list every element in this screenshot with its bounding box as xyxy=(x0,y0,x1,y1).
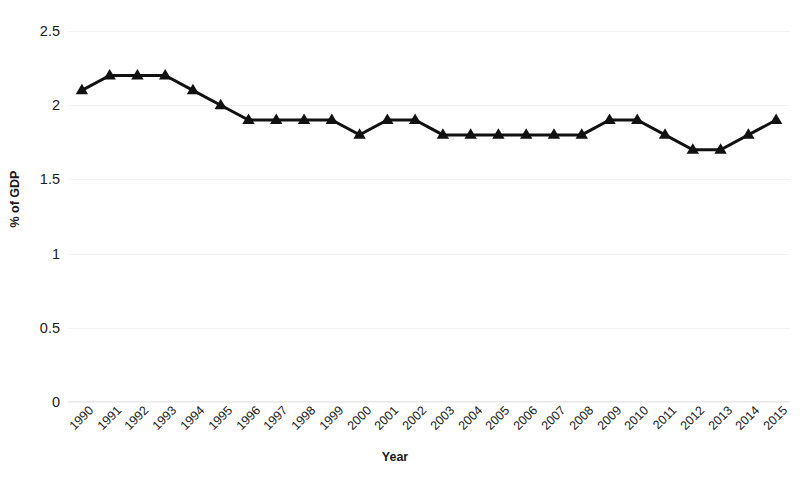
x-tick-label: 2012 xyxy=(678,404,707,433)
y-tick-label: 2.5 xyxy=(4,24,60,39)
x-tick-label: 2004 xyxy=(456,404,485,433)
x-tick-label: 2001 xyxy=(373,404,402,433)
x-tick-label: 2015 xyxy=(761,404,790,433)
y-tick-label: 1.5 xyxy=(4,172,60,187)
x-axis-tick-labels: 1990199119921993199419951996199719981999… xyxy=(68,404,790,452)
y-tick-label: 0.5 xyxy=(4,321,60,336)
x-tick-label: 1998 xyxy=(289,404,318,433)
data-point-marker xyxy=(770,114,782,125)
x-tick-label: 2006 xyxy=(512,404,541,433)
gridline xyxy=(68,402,790,403)
data-series-line xyxy=(68,31,790,402)
x-tick-label: 1997 xyxy=(262,404,291,433)
x-tick-label: 2000 xyxy=(345,404,374,433)
plot-area xyxy=(68,31,790,402)
chart-figure: % of GDP 2.521.510.50 199019911992199319… xyxy=(0,0,801,480)
x-tick-label: 2013 xyxy=(706,404,735,433)
x-tick-label: 2009 xyxy=(595,404,624,433)
x-tick-label: 2002 xyxy=(400,404,429,433)
x-tick-label: 1996 xyxy=(234,404,263,433)
y-tick-label: 0 xyxy=(4,395,60,410)
y-axis-tick-labels: 2.521.510.50 xyxy=(0,31,60,402)
x-tick-label: 1993 xyxy=(151,404,180,433)
x-tick-label: 2008 xyxy=(567,404,596,433)
x-axis-title: Year xyxy=(0,450,790,464)
x-tick-label: 2014 xyxy=(734,404,763,433)
x-tick-label: 2007 xyxy=(539,404,568,433)
x-tick-label: 1992 xyxy=(123,404,152,433)
y-tick-label: 2 xyxy=(4,98,60,113)
x-tick-label: 1999 xyxy=(317,404,346,433)
x-tick-label: 1994 xyxy=(178,404,207,433)
series-polyline xyxy=(82,76,776,150)
x-tick-label: 2010 xyxy=(623,404,652,433)
x-tick-label: 1995 xyxy=(206,404,235,433)
x-tick-label: 1991 xyxy=(95,404,124,433)
y-tick-label: 1 xyxy=(4,246,60,261)
x-tick-label: 2005 xyxy=(484,404,513,433)
x-tick-label: 1990 xyxy=(67,404,96,433)
x-tick-label: 2011 xyxy=(651,404,679,432)
x-tick-label: 2003 xyxy=(428,404,457,433)
